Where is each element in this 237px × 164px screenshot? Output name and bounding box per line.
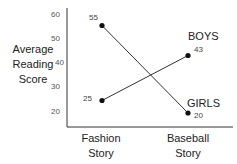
series-label-boys: BOYS [188, 30, 219, 42]
reading-score-chart: Average Reading Score 60 50 40 30 20 Fas… [0, 0, 237, 164]
data-label-boys-fashion: 25 [83, 94, 92, 103]
series-line-boys [102, 56, 188, 101]
x-category-line: Fashion [71, 131, 131, 146]
data-point-girls-0 [99, 23, 104, 28]
data-point-boys-0 [99, 98, 104, 103]
data-label-girls-baseball: 20 [194, 111, 203, 120]
data-point-girls-1 [185, 110, 190, 115]
y-tick-50: 50 [51, 34, 60, 43]
y-axis-title: Average Reading Score [6, 42, 60, 87]
series-line-girls [102, 26, 188, 114]
x-category-line: Story [71, 146, 131, 161]
data-point-boys-1 [185, 53, 190, 58]
series-lines [99, 23, 190, 116]
data-label-boys-baseball: 43 [194, 45, 203, 54]
y-axis-title-line: Reading [6, 57, 60, 72]
y-tick-20: 20 [51, 107, 60, 116]
x-category-fashion-story: Fashion Story [71, 131, 131, 161]
y-axis-title-line: Average [6, 42, 60, 57]
y-tick-60: 60 [51, 10, 60, 19]
data-label-girls-fashion: 55 [89, 13, 98, 22]
series-label-girls: GIRLS [187, 97, 220, 109]
x-category-line: Baseball [158, 131, 218, 146]
y-tick-40: 40 [55, 58, 64, 67]
x-category-baseball-story: Baseball Story [158, 131, 218, 161]
x-category-line: Story [158, 146, 218, 161]
y-tick-30: 30 [51, 82, 60, 91]
